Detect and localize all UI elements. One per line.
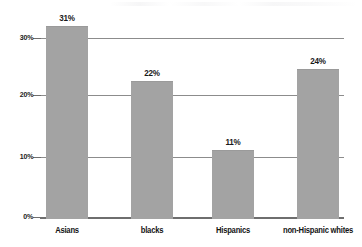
- ytick-mark-30: [33, 38, 41, 39]
- bar-value-asians: 31%: [48, 14, 86, 23]
- bar-hispanics: [212, 150, 254, 219]
- category-label-hispanics: Hispanics: [206, 226, 260, 235]
- category-label-non-hispanic-whites: non-Hispanic whites: [278, 226, 359, 235]
- bar-value-hispanics: 11%: [214, 138, 252, 147]
- ytick-mark-20: [33, 95, 41, 96]
- bar-blacks: [131, 81, 173, 219]
- plot-area: 30% 20% 10% 0% 31% 22% 11% 24% Asians bl…: [0, 0, 362, 247]
- ytick-label-10: 10%: [19, 153, 33, 161]
- bar-value-blacks: 22%: [133, 69, 171, 78]
- category-label-asians: Asians: [40, 226, 94, 235]
- bar-asians: [46, 26, 88, 219]
- ytick-mark-10: [33, 157, 41, 158]
- ytick-label-0: 0%: [23, 213, 33, 221]
- bar-non-hispanic-whites: [297, 69, 339, 219]
- bar-value-non-hispanic-whites: 24%: [299, 57, 337, 66]
- ytick-label-20: 20%: [19, 91, 33, 99]
- ytick-mark-0: [33, 217, 41, 218]
- category-label-blacks: blacks: [125, 226, 179, 235]
- bar-chart: 30% 20% 10% 0% 31% 22% 11% 24% Asians bl…: [0, 0, 362, 247]
- ytick-label-30: 30%: [19, 34, 33, 42]
